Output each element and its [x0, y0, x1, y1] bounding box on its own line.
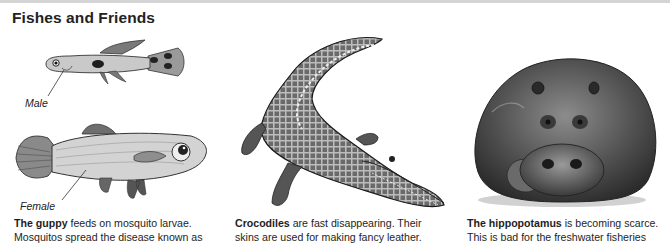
page-title: Fishes and Friends: [12, 9, 155, 27]
hippopotamus-illustration: [462, 52, 662, 212]
hippopotamus-caption: The hippopotamus is becoming scarce. Thi…: [467, 216, 658, 244]
female-guppy-illustration: [16, 120, 211, 205]
crocodile-illustration: [232, 33, 447, 213]
hippopotamus-caption-bold: The hippopotamus: [467, 217, 562, 229]
guppy-caption-line1: The guppy feeds on mosquito larvae.: [14, 216, 202, 230]
crocodile-caption-line2: skins are used for making fancy leather.: [235, 230, 422, 244]
hippopotamus-caption-line1: The hippopotamus is becoming scarce.: [467, 216, 658, 230]
top-rule: [0, 0, 670, 3]
crocodile-caption-line1: Crocodiles are fast disappearing. Their: [235, 216, 422, 230]
guppy-caption: The guppy feeds on mosquito larvae. Mosq…: [14, 216, 202, 244]
guppy-caption-line2: Mosquitos spread the disease known as: [14, 230, 202, 244]
male-label: Male: [25, 97, 48, 109]
guppy-caption-bold: The guppy: [14, 217, 68, 229]
hippopotamus-caption-line1-rest: is becoming scarce.: [562, 217, 659, 229]
crocodile-caption-bold: Crocodiles: [235, 217, 290, 229]
crocodile-caption: Crocodiles are fast disappearing. Their …: [235, 216, 422, 244]
crocodile-caption-line1-rest: are fast disappearing. Their: [290, 217, 422, 229]
guppy-caption-line1-rest: feeds on mosquito larvae.: [68, 217, 192, 229]
hippopotamus-caption-line2: This is bad for the freshwater fisheries: [467, 230, 658, 244]
male-guppy-illustration: [40, 40, 185, 85]
female-label: Female: [20, 200, 55, 212]
